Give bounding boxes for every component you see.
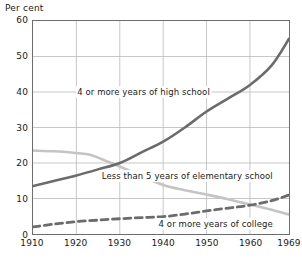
y-axis-title: Per cent (5, 3, 44, 13)
series-annotation-label: Less than 5 years of elementary school (100, 170, 275, 182)
series-line (33, 39, 289, 186)
chart-container: Per cent 0102030405060 19101920193019401… (0, 0, 302, 263)
series-annotation-label: 4 or more years of high school (75, 86, 212, 98)
y-axis-tick-labels: 0102030405060 (0, 20, 28, 235)
x-axis-tick-label: 1920 (64, 238, 87, 248)
y-axis-tick-label: 40 (2, 87, 28, 97)
plot-area (32, 20, 290, 235)
x-axis-tick-label: 1950 (195, 238, 218, 248)
x-axis-tick-label: 1910 (20, 238, 43, 248)
x-axis-tick-label: 1960 (239, 238, 262, 248)
y-axis-tick-label: 20 (2, 158, 28, 168)
y-axis-tick-label: 30 (2, 123, 28, 133)
x-axis-tick-labels: 1910192019301940195019601969 (32, 238, 290, 254)
y-axis-tick-label: 50 (2, 51, 28, 61)
y-axis-tick-label: 10 (2, 194, 28, 204)
x-axis-tick-label: 1969 (277, 238, 300, 248)
gridlines (33, 21, 289, 234)
chart-svg-layer (33, 21, 289, 234)
series-annotation-label: 4 or more years of college (157, 218, 275, 230)
y-axis-tick-label: 60 (2, 15, 28, 25)
x-axis-tick-label: 1940 (152, 238, 175, 248)
x-axis-tick-label: 1930 (108, 238, 131, 248)
